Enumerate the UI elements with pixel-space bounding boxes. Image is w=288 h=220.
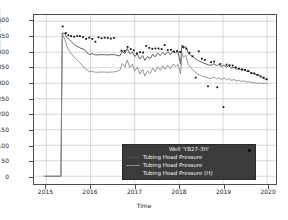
legend-line-icon — [126, 162, 140, 169]
x-tick-mark — [268, 185, 269, 189]
x-tick-mark — [224, 185, 225, 189]
y-tick-label: 500 — [0, 17, 9, 23]
y-tick-label: 100 — [0, 143, 9, 149]
legend-scatter-marker-icon — [248, 149, 251, 152]
legend-entry[interactable]: Tubing Head Pressure (H) — [126, 169, 252, 177]
legend-entries: Tubing Head PressureTubing Head Pressure… — [126, 153, 252, 177]
legend-line-icon — [126, 154, 140, 161]
x-tick-mark — [45, 185, 46, 189]
x-tick-label: 2017 — [115, 188, 155, 195]
x-tick-label: 2016 — [70, 188, 110, 195]
x-tick-label: 2020 — [248, 188, 288, 195]
legend-entry[interactable]: Tubing Head Pressure — [126, 161, 252, 169]
legend-box[interactable]: Well 'YB27-3H' Tubing Head PressureTubin… — [122, 144, 256, 180]
y-tick-label: 200 — [0, 111, 9, 117]
x-tick-mark — [135, 185, 136, 189]
y-tick-label: 250 — [0, 96, 9, 102]
legend-entry-label: Tubing Head Pressure — [143, 161, 202, 169]
chart-figure: Pressure, Barsa Time 0501001502002503003… — [0, 0, 288, 220]
legend-marker-icon — [126, 170, 140, 177]
y-tick-label: 300 — [0, 80, 9, 86]
x-tick-label: 2018 — [159, 188, 199, 195]
x-tick-label: 2015 — [25, 188, 65, 195]
y-tick-label: 450 — [0, 33, 9, 39]
y-tick-label: 400 — [0, 49, 9, 55]
legend-entry-label: Tubing Head Pressure (H) — [143, 169, 213, 177]
legend-title: Well 'YB27-3H' — [126, 146, 252, 153]
legend-entry[interactable]: Tubing Head Pressure — [126, 153, 252, 161]
x-tick-mark — [179, 185, 180, 189]
y-tick-label: 50 — [0, 158, 9, 164]
y-tick-label: 350 — [0, 64, 9, 70]
x-axis-label: Time — [0, 202, 288, 209]
x-tick-mark — [90, 185, 91, 189]
x-tick-label: 2019 — [204, 188, 244, 195]
y-tick-label: 150 — [0, 127, 9, 133]
legend-entry-label: Tubing Head Pressure — [143, 153, 202, 161]
y-tick-label: 0 — [0, 174, 9, 180]
